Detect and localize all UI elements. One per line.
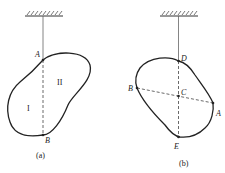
region-one: I — [27, 104, 30, 113]
figure-a: A B II I (a) — [8, 11, 91, 160]
ceiling-support — [25, 11, 63, 16]
caption-a: (a) — [36, 151, 45, 160]
body-outline — [136, 58, 213, 137]
label-d: D — [180, 54, 187, 63]
diagram: A B II I (a) D B C A E (b) — [0, 0, 225, 173]
label-b: B — [128, 84, 133, 93]
ceiling-support — [160, 11, 198, 16]
label-a: A — [215, 109, 221, 118]
label-e: E — [173, 142, 179, 151]
region-two: II — [57, 78, 63, 87]
label-a: A — [34, 50, 40, 59]
figure-b: D B C A E (b) — [128, 11, 221, 168]
label-b: B — [45, 136, 50, 145]
dashed-line-ba — [137, 88, 213, 103]
caption-b: (b) — [179, 159, 189, 168]
label-c: C — [181, 88, 187, 97]
body-outline — [8, 53, 91, 136]
